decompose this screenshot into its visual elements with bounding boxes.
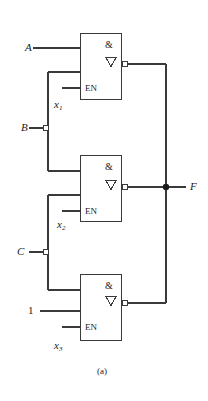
signal-label-x2-subscript: 2 — [62, 224, 66, 232]
signal-label-c: C — [17, 246, 24, 257]
gate-bottom-output-bubble — [122, 300, 128, 306]
signal-label-b: B — [21, 122, 28, 133]
signal-label-x1-subscript: 1 — [59, 104, 63, 112]
signal-label-f: F — [190, 181, 197, 192]
signal-label-x3: x3 — [54, 340, 62, 355]
gate-top-en-label: EN — [85, 84, 97, 93]
c-input-bubble — [43, 249, 49, 255]
gate-middle-and-symbol: & — [105, 162, 113, 172]
gate-bottom-en-label: EN — [85, 323, 97, 332]
b-input-bubble — [43, 125, 49, 131]
signal-label-a: A — [25, 42, 32, 53]
signal-label-const-one: 1 — [28, 305, 34, 316]
gate-middle-output-bubble — [122, 184, 128, 190]
signal-label-x1: x1 — [54, 99, 62, 114]
gate-top-and-symbol: & — [105, 40, 113, 50]
gate-top-output-bubble — [122, 61, 128, 67]
gate-middle-en-label: EN — [85, 207, 97, 216]
circuit-diagram — [0, 0, 208, 401]
figure-caption: (a) — [97, 367, 107, 376]
signal-label-x2: x2 — [57, 219, 65, 234]
gate-bottom-and-symbol: & — [105, 281, 113, 291]
f-junction-dot — [163, 184, 169, 190]
signal-label-x3-subscript: 3 — [59, 345, 63, 353]
